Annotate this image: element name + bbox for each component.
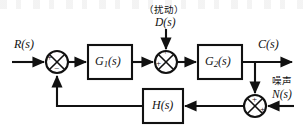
- block-h-arg: s: [165, 98, 170, 112]
- block-h-base: H: [152, 98, 161, 112]
- input-signal-base: R: [14, 37, 21, 51]
- block-g1-label: G1(s): [95, 55, 121, 68]
- block-g2-subscript: 2: [214, 59, 218, 69]
- disturbance-signal-label: D(s): [155, 17, 175, 29]
- error-sum-minus-sign: −: [54, 64, 59, 73]
- disturbance-signal-base: D: [155, 16, 163, 28]
- block-g1-arg: s: [112, 54, 117, 68]
- block-g2-arg: s: [222, 54, 227, 68]
- block-g1-base: G: [95, 54, 104, 68]
- block-g2-base: G: [205, 54, 214, 68]
- wire-h-to-error-sum: [57, 76, 143, 106]
- output-signal-arg: s: [270, 37, 275, 51]
- noise-signal-base: N: [272, 88, 280, 100]
- noise-caption: 噪声: [272, 76, 292, 86]
- disturbance-sum-left-plus-sign: +: [156, 59, 161, 68]
- disturbance-sum-top-plus-sign: +: [163, 47, 168, 56]
- input-signal-label: R(s): [14, 38, 34, 50]
- output-signal-base: C: [258, 37, 266, 51]
- disturbance-caption: （扰动）: [144, 5, 184, 15]
- disturbance-signal-arg: s: [167, 16, 171, 28]
- noise-signal-arg: s: [284, 88, 288, 100]
- output-signal-label: C(s): [258, 38, 279, 50]
- block-g2-label: G2(s): [205, 55, 231, 68]
- block-g1-subscript: 1: [104, 59, 108, 69]
- block-h-label: H(s): [152, 99, 173, 112]
- input-signal-arg: s: [25, 37, 30, 51]
- noise-sum-right-plus-sign: +: [260, 105, 265, 114]
- error-sum-plus-sign: +: [47, 53, 52, 62]
- diagram-canvas: [0, 0, 303, 132]
- block-diagram-figure: R(s) C(s) （扰动） D(s) 噪声 N(s) G1(s) G2(s) …: [0, 0, 303, 132]
- noise-sum-top-plus-sign: +: [252, 95, 257, 104]
- noise-signal-label: N(s): [272, 89, 292, 101]
